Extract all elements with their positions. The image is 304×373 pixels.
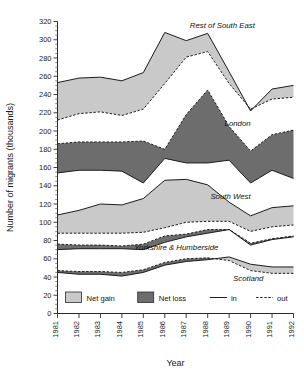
y-tick-label: 260 [39,72,52,81]
series-label-london: London [225,119,251,128]
y-tick-label: 320 [39,17,52,26]
y-tick-label: 100 [39,218,52,227]
y-tick-label: 280 [39,54,52,63]
y-tick-label: 180 [39,145,52,154]
legend-label-in: in [231,294,237,303]
series-label-scotland: Scotland [233,274,264,283]
legend-label-net_loss: Net loss [159,294,187,303]
x-tick-label: 1982 [72,321,81,338]
series-label-yorkshire-humberside: Yorkshire & Humberside [134,243,219,252]
y-tick-label: 300 [39,35,52,44]
legend-swatch-net_gain [66,292,82,303]
chart-canvas: 0204060801001201401601802002202402602803… [0,0,304,373]
x-axis-title: Year [166,358,184,368]
y-tick-label: 120 [39,200,52,209]
chart-legend: Net gainNet lossinout [60,287,291,308]
legend-label-net_gain: Net gain [87,294,115,303]
x-tick-label: 1990 [244,321,253,338]
x-tick-label: 1984 [115,321,124,338]
y-tick-label: 20 [43,291,51,300]
series-label-rest-of-south-east: Rest of South East [190,21,256,30]
x-tick-label: 1992 [287,321,296,338]
y-tick-label: 220 [39,108,52,117]
band-rest-of-south-east-gain [58,32,248,120]
x-tick-label: 1989 [222,321,231,338]
x-tick-label: 1986 [158,321,167,338]
migration-area-chart: 0204060801001201401601802002202402602803… [0,0,304,373]
y-tick-label: 60 [43,254,51,263]
y-tick-label: 140 [39,181,52,190]
y-axis-title: Number of migrants (thousands) [5,103,15,232]
x-tick-label: 1983 [93,321,102,338]
y-tick-label: 0 [47,309,51,318]
y-tick-label: 200 [39,127,52,136]
x-tick-label: 1981 [51,321,60,338]
series-label-south-west: South West [210,192,251,201]
x-tick-label: 1991 [265,321,274,338]
legend-label-out: out [277,294,288,303]
x-tick-label: 1985 [136,321,145,338]
y-tick-label: 40 [43,273,51,282]
x-tick-label: 1987 [179,321,188,338]
y-tick-label: 80 [43,236,51,245]
legend-swatch-net_loss [138,292,154,303]
x-tick-label: 1988 [201,321,210,338]
y-tick-label: 160 [39,163,52,172]
y-tick-label: 240 [39,90,52,99]
